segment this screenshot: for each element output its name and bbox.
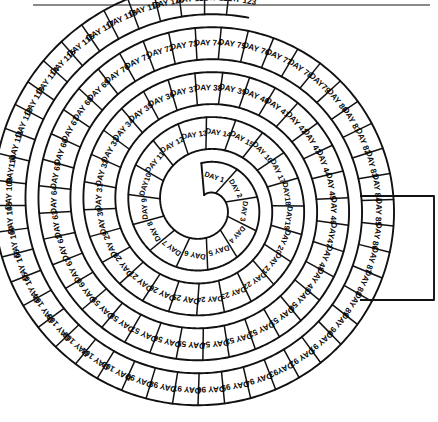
spiral-canvas: DAY 1DAY 2DAY 3DAY 4DAY 5DAY 6DAY 7DAY 8…	[0, 0, 438, 422]
spiral-day-chart-figure: DAY 1DAY 2DAY 3DAY 4DAY 5DAY 6DAY 7DAY 8…	[0, 0, 438, 422]
day-label: DAY 123	[223, 0, 257, 7]
day-label: DAY 17	[268, 158, 287, 185]
day-label: DAY 13	[181, 128, 208, 141]
spiral-inner-edge	[25, 14, 362, 373]
day-label: DAY 8	[145, 220, 163, 243]
day-label: DAY 3	[238, 200, 250, 222]
day-label: DAY 46	[328, 197, 338, 226]
day-label: DAY 5	[207, 243, 231, 258]
spiral-day-labels: DAY 1DAY 2DAY 3DAY 4DAY 5DAY 6DAY 7DAY 8…	[4, 0, 384, 395]
day-label: DAY 9	[140, 198, 150, 220]
spiral-start-cap	[201, 163, 204, 195]
day-label: DAY 2	[227, 177, 245, 199]
day-label: DAY 23	[220, 285, 247, 301]
day-label: DAY 4	[227, 224, 247, 245]
day-label: DAY18	[281, 181, 293, 206]
day-label: DAY19	[282, 206, 295, 231]
day-label: DAY10	[137, 172, 153, 197]
day-label: DAY 1	[203, 169, 225, 184]
day-label: DAY 6	[184, 249, 207, 262]
day-label: DAY 7	[160, 238, 183, 258]
day-label: DAY 14	[205, 126, 233, 140]
